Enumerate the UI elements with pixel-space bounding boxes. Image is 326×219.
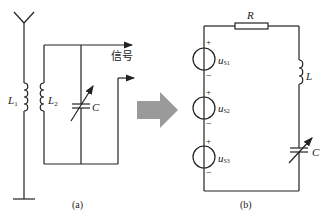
voltage-source-us3: + − uS3 (193, 136, 230, 178)
svg-text:uS1: uS1 (218, 54, 230, 66)
resistor-icon (235, 23, 268, 29)
inductor-l-icon (299, 60, 303, 84)
caption-b: (b) (240, 199, 252, 211)
svg-text:+: + (206, 136, 211, 146)
voltage-source-us2: + − uS2 (193, 87, 230, 129)
signal-label: 信号 (111, 50, 133, 63)
capacitor-c-label-b: C (312, 146, 320, 158)
inductor-l1-label: L1 (7, 94, 18, 108)
svg-text:−: − (206, 118, 212, 129)
svg-text:uS2: uS2 (218, 102, 230, 114)
svg-text:+: + (206, 87, 211, 97)
svg-text:+: + (206, 37, 211, 47)
capacitor-c-label-a: C (92, 101, 100, 113)
inductor-l-label: L (305, 70, 312, 82)
circuit-diagram: L1 L2 C 信号 (a) (0, 0, 326, 219)
svg-text:−: − (206, 70, 212, 81)
panel-a: L1 L2 C 信号 (a) (7, 12, 134, 211)
inductor-l1-icon (24, 83, 28, 199)
svg-text:uS3: uS3 (218, 152, 230, 164)
svg-text:−: − (206, 167, 212, 178)
caption-a: (a) (72, 199, 83, 211)
panel-b: R + − uS1 + − uS2 + − uS3 (193, 9, 320, 211)
resistor-r-label: R (246, 9, 254, 21)
antenna-icon (14, 12, 34, 83)
variable-capacitor-b-icon (289, 138, 312, 163)
inductor-l2-label: L2 (47, 94, 58, 108)
voltage-source-us1: + − uS1 (193, 37, 230, 81)
inductor-l2-icon (40, 45, 44, 164)
transform-arrow-icon (137, 92, 178, 128)
variable-capacitor-icon (71, 45, 93, 164)
